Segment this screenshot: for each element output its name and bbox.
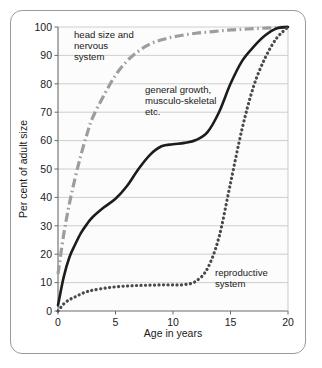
growth-chart: 0102030405060708090100 05101520 Age in y… — [0, 0, 322, 368]
x-tick-label-15: 15 — [225, 316, 237, 328]
y-tick-label-40: 40 — [40, 191, 52, 203]
y-tick-label-80: 80 — [40, 78, 52, 90]
x-tick-label-5: 5 — [113, 316, 119, 328]
x-tick-label-20: 20 — [282, 316, 294, 328]
head-nervous-annotation-line-0: head size and — [74, 29, 134, 40]
y-tick-label-90: 90 — [40, 49, 52, 61]
general-growth-annotation-line-1: musculo-skeletal — [145, 95, 216, 106]
reproductive-annotation-line-1: system — [215, 278, 245, 289]
y-axis-title: Per cent of adult size — [17, 120, 29, 218]
y-tick-label-100: 100 — [34, 21, 52, 33]
general-growth-annotation-line-0: general growth, — [145, 84, 211, 95]
head-nervous-annotation-line-2: system — [74, 51, 104, 62]
x-tick-label-0: 0 — [55, 316, 61, 328]
y-axis-tick-labels: 0102030405060708090100 — [34, 21, 52, 317]
y-tick-label-50: 50 — [40, 163, 52, 175]
y-tick-label-0: 0 — [46, 305, 52, 317]
head-nervous-annotation-line-1: nervous — [74, 40, 108, 51]
y-tick-label-20: 20 — [40, 248, 52, 260]
x-axis-title: Age in years — [144, 327, 202, 339]
general-growth-annotation-line-2: etc. — [145, 106, 160, 117]
y-tick-label-10: 10 — [40, 276, 52, 288]
y-tick-label-30: 30 — [40, 220, 52, 232]
y-tick-label-70: 70 — [40, 106, 52, 118]
reproductive-annotation-line-0: reproductive — [215, 267, 268, 278]
y-tick-label-60: 60 — [40, 134, 52, 146]
human-growth-curves-figure: 0102030405060708090100 05101520 Age in y… — [0, 0, 322, 368]
